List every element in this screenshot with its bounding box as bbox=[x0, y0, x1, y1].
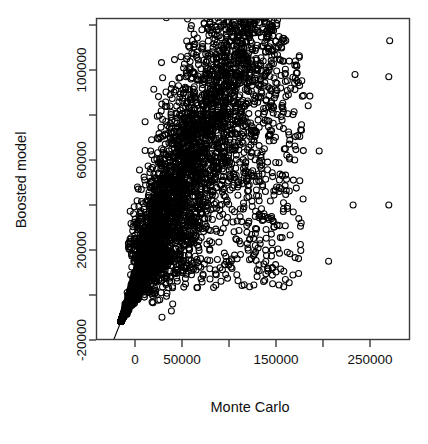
x-tick-label: 0 bbox=[131, 352, 139, 367]
x-tick-label: 150000 bbox=[253, 352, 298, 367]
y-tick-label: 20000 bbox=[74, 231, 89, 269]
y-axis-ticks bbox=[89, 25, 96, 340]
y-tick-label: 100000 bbox=[74, 47, 89, 92]
y-tick-label: -20000 bbox=[74, 319, 89, 361]
scatter-plot-figure: 100000 60000 20000 -20000 0 50000 150000… bbox=[0, 0, 428, 444]
y-axis-title: Boosted model bbox=[13, 132, 29, 229]
x-axis-ticks bbox=[135, 340, 370, 347]
plot-canvas: 100000 60000 20000 -20000 0 50000 150000… bbox=[0, 0, 428, 444]
scatter-points-layer bbox=[118, 11, 393, 324]
x-axis-tick-labels: 0 50000 150000 250000 bbox=[131, 352, 392, 367]
y-axis-tick-labels: 100000 60000 20000 -20000 bbox=[74, 47, 89, 361]
x-tick-label: 250000 bbox=[347, 352, 392, 367]
y-tick-label: 60000 bbox=[74, 141, 89, 179]
x-axis-title: Monte Carlo bbox=[211, 399, 290, 415]
x-tick-label: 50000 bbox=[163, 352, 201, 367]
